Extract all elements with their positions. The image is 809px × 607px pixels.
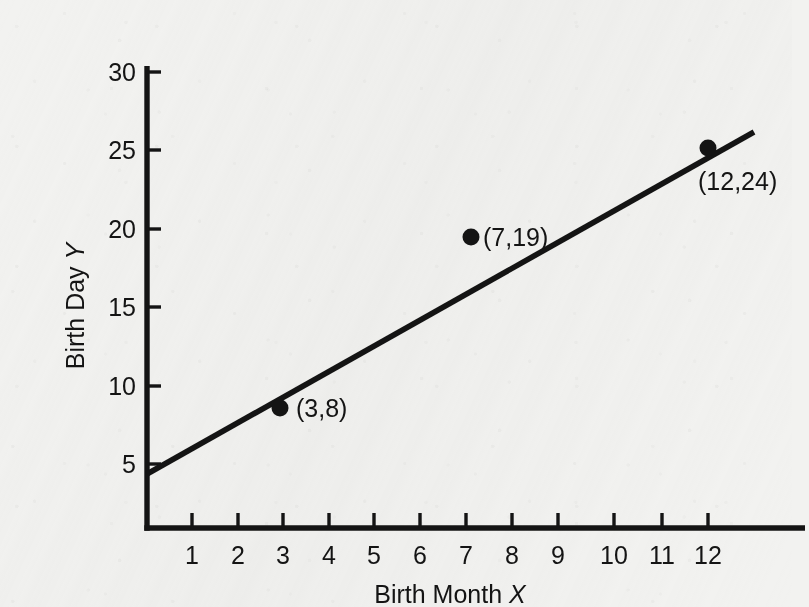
- x-tick-label-5: 5: [367, 541, 381, 569]
- data-point-7-19: [463, 229, 480, 246]
- x-tick-label-1: 1: [185, 541, 199, 569]
- plot-canvas: 30 25 20 15 10 5 1 2 3 4: [40, 16, 809, 607]
- x-tick-label-7: 7: [459, 541, 473, 569]
- x-tick-label-6: 6: [413, 541, 427, 569]
- data-point-label-12-24: (12,24): [698, 167, 777, 195]
- y-tick-label-5: 5: [122, 450, 136, 478]
- y-tick-label-10: 10: [108, 372, 136, 400]
- x-axis-tick-labels: 1 2 3 4 5 6 7 8 9 10 11 12: [185, 541, 722, 569]
- x-tick-label-4: 4: [322, 541, 336, 569]
- data-point-label-7-19: (7,19): [483, 223, 548, 251]
- regression-trend-line: [147, 132, 754, 474]
- x-axis-title: Birth Month X: [374, 580, 527, 607]
- axis-group: [144, 66, 805, 531]
- x-tick-label-3: 3: [276, 541, 290, 569]
- y-tick-label-25: 25: [108, 136, 136, 164]
- y-axis-title: Birth Day Y: [61, 240, 89, 369]
- y-axis-variable: Y: [61, 240, 89, 259]
- x-axis-title-text: Birth Month: [374, 580, 502, 607]
- x-tick-label-8: 8: [505, 541, 519, 569]
- y-tick-label-20: 20: [108, 215, 136, 243]
- data-point-3-8: [272, 400, 289, 417]
- data-point-labels: (3,8) (7,19) (12,24): [296, 167, 777, 422]
- y-tick-label-30: 30: [108, 58, 136, 86]
- x-axis-variable: X: [508, 580, 527, 607]
- data-point-label-3-8: (3,8): [296, 394, 347, 422]
- x-tick-label-11: 11: [649, 541, 675, 569]
- y-axis-title-text: Birth Day: [61, 266, 89, 369]
- scatter-plot-figure: 30 25 20 15 10 5 1 2 3 4: [40, 16, 752, 591]
- x-tick-label-10: 10: [600, 541, 628, 569]
- x-tick-label-9: 9: [551, 541, 565, 569]
- x-tick-label-2: 2: [231, 541, 245, 569]
- x-tick-label-12: 12: [694, 541, 722, 569]
- y-axis-tick-labels: 30 25 20 15 10 5: [108, 58, 136, 478]
- data-point-12-24: [700, 140, 717, 157]
- y-tick-label-15: 15: [108, 293, 136, 321]
